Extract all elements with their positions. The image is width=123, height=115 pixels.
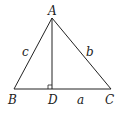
side-ab <box>14 18 52 89</box>
triangle-diagram: A B D C c b a <box>0 0 123 115</box>
vertex-label-c: C <box>105 93 114 107</box>
vertex-label-d: D <box>47 93 58 107</box>
vertex-label-b: B <box>7 93 17 107</box>
side-label-b: b <box>86 45 94 59</box>
side-ac <box>52 18 111 89</box>
side-label-c: c <box>22 45 29 59</box>
right-angle-marker <box>48 85 52 89</box>
vertex-label-a: A <box>47 4 57 18</box>
side-label-a: a <box>77 93 84 107</box>
